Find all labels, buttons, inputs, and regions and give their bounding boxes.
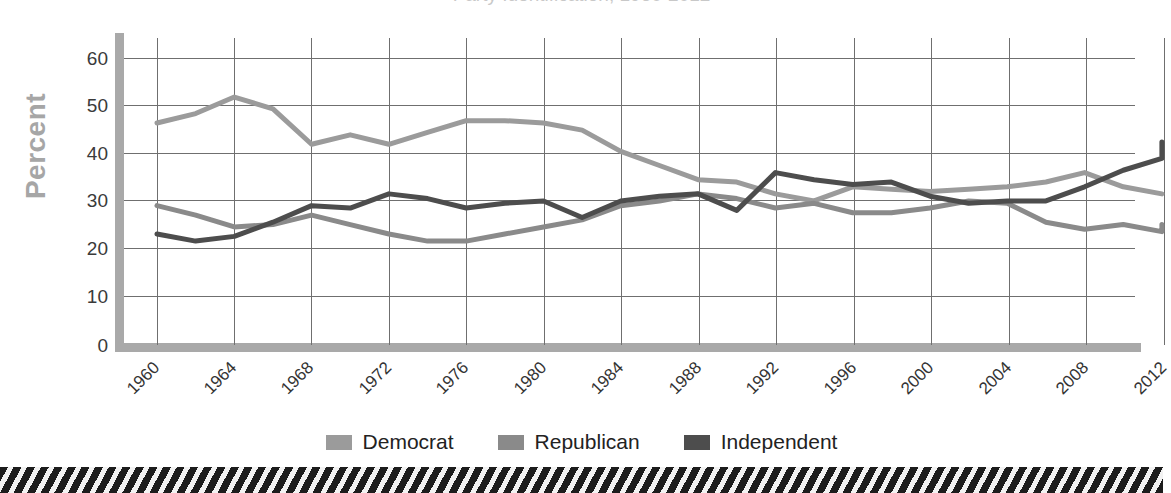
x-tickmark-1976 [466,330,467,345]
x-tickmark-2000 [931,330,932,345]
x-tickmark-1996 [854,330,855,345]
x-tick-label-2000: 2000 [897,358,938,399]
x-tickmark-1972 [389,330,390,345]
y-tick-30: 30 [64,191,108,210]
series-lines [124,38,1135,345]
x-tick-label-2012: 2012 [1130,358,1171,399]
y-axis-tick-labels: 60 50 40 30 20 10 0 [58,0,108,460]
x-tickmark-2012 [1164,330,1165,345]
y-tick-10: 10 [64,287,108,306]
x-tick-label-1984: 1984 [587,358,628,399]
legend-label-independent: Independent [721,430,838,454]
x-tickmark-1964 [234,330,235,345]
scanner-stripe-band [0,467,1163,493]
series-line-independent [157,142,1162,241]
x-tickmark-1980 [544,330,545,345]
x-tickmark-2008 [1086,330,1087,345]
chart-legend: Democrat Republican Independent [0,424,1163,460]
series-line-democrat [157,97,1162,201]
x-tick-label-1964: 1964 [200,358,241,399]
gridline-v-2012 [1164,38,1165,345]
legend-swatch-republican [498,435,524,450]
legend-item-republican[interactable]: Republican [498,430,640,454]
x-tickmark-1988 [699,330,700,345]
y-axis-spine [115,33,124,352]
x-tickmark-2004 [1009,330,1010,345]
x-tick-label-2008: 2008 [1052,358,1093,399]
legend-swatch-independent [684,435,710,450]
legend-item-democrat[interactable]: Democrat [326,430,454,454]
plot-area [124,38,1135,345]
legend-label-republican: Republican [535,430,640,454]
y-tick-50: 50 [64,96,108,115]
line-chart: Percent 60 50 40 30 20 10 0 [0,0,1163,460]
x-tick-label-1980: 1980 [510,358,551,399]
x-tick-label-1992: 1992 [742,358,783,399]
y-tick-0: 0 [64,336,108,355]
y-tick-60: 60 [64,49,108,68]
legend-swatch-democrat [326,435,352,450]
x-tick-label-1972: 1972 [355,358,396,399]
x-tick-label-1960: 1960 [123,358,164,399]
x-tick-label-1968: 1968 [277,358,318,399]
x-tickmark-1968 [311,330,312,345]
x-tick-label-2004: 2004 [975,358,1016,399]
y-tick-20: 20 [64,239,108,258]
y-tick-40: 40 [64,144,108,163]
x-tick-label-1996: 1996 [820,358,861,399]
x-tick-label-1988: 1988 [665,358,706,399]
legend-label-democrat: Democrat [363,430,454,454]
legend-item-independent[interactable]: Independent [684,430,838,454]
y-axis-label: Percent [20,66,52,226]
x-tickmark-1992 [776,330,777,345]
x-tick-label-1976: 1976 [432,358,473,399]
x-tickmark-1960 [157,330,158,345]
x-tickmark-1984 [621,330,622,345]
